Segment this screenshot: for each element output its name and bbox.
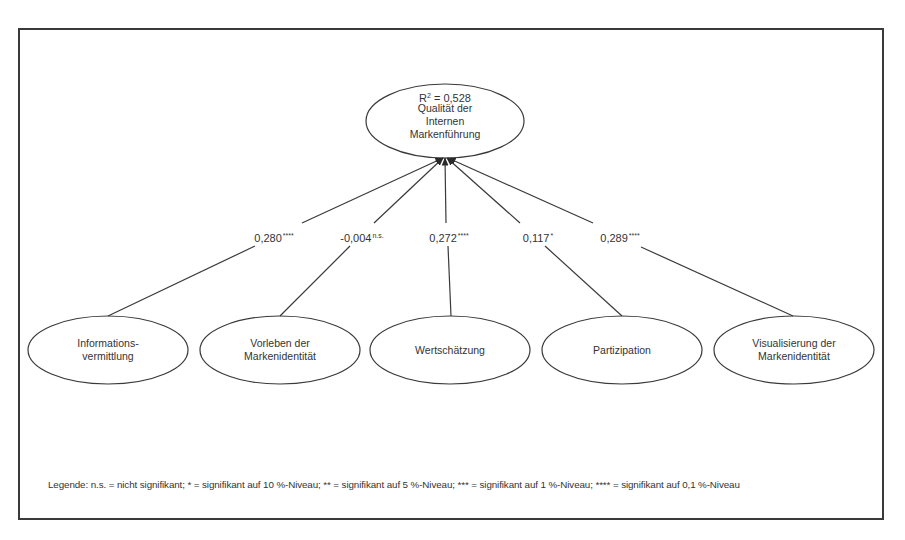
coefficient-value: 0,272: [429, 232, 457, 244]
path-line-2-lower: [280, 246, 350, 316]
coefficient-value: -0,004: [340, 232, 371, 244]
legend-text: Legende: n.s. = nicht signifikant; * = s…: [48, 479, 740, 490]
coefficient-label-1: 0,280****: [254, 232, 293, 244]
significance-marker: ****: [458, 232, 469, 239]
path-line-3-upper: [445, 158, 446, 223]
path-diagram: [0, 0, 905, 540]
path-line-1-lower: [108, 246, 255, 316]
path-line-4-lower: [545, 246, 622, 316]
coefficient-label-4: 0,117*: [523, 232, 553, 244]
coefficient-value: 0,117: [523, 232, 550, 244]
path-line-4-upper: [447, 158, 520, 223]
significance-marker: ****: [283, 232, 294, 239]
path-line-5-lower: [641, 247, 793, 316]
coefficient-label-2: -0,004n.s.: [340, 232, 384, 244]
path-line-3-lower: [448, 246, 451, 316]
coefficient-label-3: 0,272****: [429, 232, 468, 244]
significance-marker: n.s.: [372, 232, 383, 239]
target-node-label: Qualität der Internen Markenführung: [410, 102, 481, 141]
coefficient-value: 0,280: [254, 232, 282, 244]
predictor-label-1: Informations- vermittlung: [77, 337, 138, 363]
coefficient-value: 0,289: [600, 232, 628, 244]
path-line-2-upper: [374, 158, 443, 223]
predictor-label-4: Partizipation: [593, 344, 651, 357]
predictor-label-5: Visualisierung der Markenidentität: [752, 337, 835, 363]
path-line-5-upper: [448, 158, 593, 223]
significance-marker: ****: [629, 232, 640, 239]
path-line-1-upper: [302, 158, 443, 223]
predictor-label-2: Vorleben der Markenidentität: [244, 337, 316, 363]
coefficient-label-5: 0,289****: [600, 232, 639, 244]
predictor-label-3: Wertschätzung: [415, 344, 485, 357]
significance-marker: *: [550, 232, 553, 239]
